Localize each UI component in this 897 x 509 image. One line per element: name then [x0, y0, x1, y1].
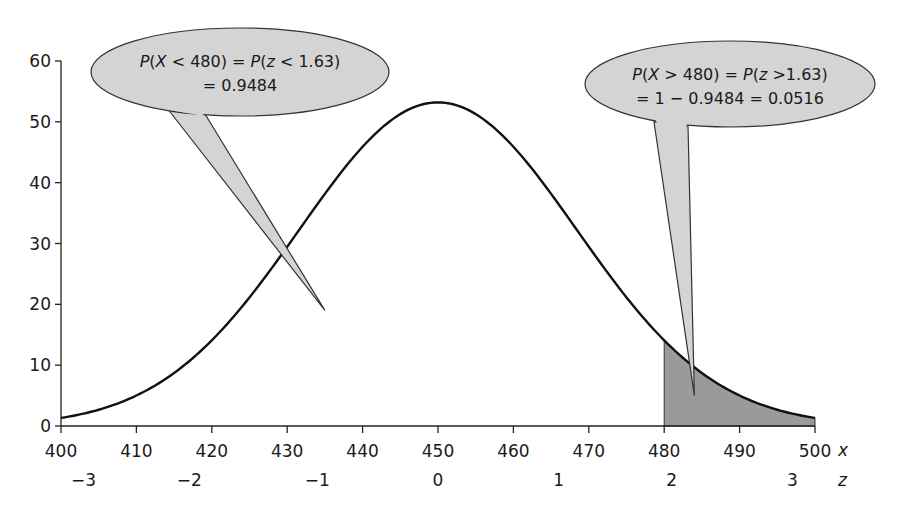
- x-tick-label: 480: [648, 441, 680, 461]
- z-tick-label: −1: [305, 470, 330, 490]
- callout-annotations: P(X < 480) = P(z < 1.63)= 0.9484P(X > 48…: [91, 28, 875, 396]
- callout-line-2: = 0.9484: [203, 76, 277, 95]
- x-axis-label: x: [837, 440, 849, 460]
- z-axis-label: z: [837, 470, 848, 490]
- normal-curve: [61, 102, 815, 418]
- y-tick-label: 40: [29, 173, 51, 193]
- z-tick-label: 3: [787, 470, 798, 490]
- x-axis-ticks: 400410420430440450460470480490500: [45, 426, 831, 461]
- callout-line-1: P(X > 480) = P(z >1.63): [632, 65, 827, 84]
- callout-line-1: P(X < 480) = P(z < 1.63): [140, 52, 341, 71]
- callout-bubble: [585, 41, 875, 127]
- x-tick-label: 430: [271, 441, 303, 461]
- x-tick-label: 420: [196, 441, 228, 461]
- x-tick-label: 500: [799, 441, 831, 461]
- y-tick-label: 0: [40, 416, 51, 436]
- z-tick-label: 0: [433, 470, 444, 490]
- callout-pointer: [167, 108, 325, 310]
- x-tick-label: 460: [497, 441, 529, 461]
- x-tick-label: 400: [45, 441, 77, 461]
- y-tick-label: 20: [29, 294, 51, 314]
- z-tick-label: 2: [666, 470, 677, 490]
- normal-distribution-chart: 0102030405060 40041042043044045046047048…: [0, 0, 897, 509]
- z-axis-labels: −3−2−10123: [71, 470, 798, 490]
- z-tick-label: −3: [71, 470, 96, 490]
- z-tick-label: −2: [177, 470, 202, 490]
- x-tick-label: 470: [573, 441, 605, 461]
- y-tick-label: 60: [29, 51, 51, 71]
- y-axis-ticks: 0102030405060: [29, 51, 61, 436]
- y-tick-label: 50: [29, 112, 51, 132]
- x-tick-label: 440: [346, 441, 378, 461]
- callout-line-2: = 1 − 0.9484 = 0.0516: [636, 89, 824, 108]
- callout-bubble: [91, 28, 389, 116]
- z-tick-label: 1: [553, 470, 564, 490]
- y-tick-label: 10: [29, 355, 51, 375]
- x-tick-label: 450: [422, 441, 454, 461]
- x-tick-label: 490: [723, 441, 755, 461]
- callout-right: P(X > 480) = P(z >1.63)= 1 − 0.9484 = 0.…: [585, 41, 875, 396]
- x-tick-label: 410: [120, 441, 152, 461]
- y-tick-label: 30: [29, 234, 51, 254]
